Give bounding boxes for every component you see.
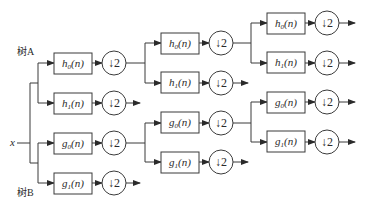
svg-text:↓2: ↓2 bbox=[321, 56, 333, 70]
filter-block-l3-a-h1: h1(n) bbox=[267, 52, 315, 73]
filter-block-l2-a-h1: h1(n) bbox=[161, 72, 209, 93]
filter-block-l3-a-h0: h0(n) bbox=[267, 13, 315, 34]
svg-text:g1(n): g1(n) bbox=[275, 135, 297, 149]
downsample-l2-a-h0: ↓2 bbox=[209, 31, 233, 55]
input-trunk bbox=[17, 63, 54, 183]
downsample-l1-b-g0: ↓2 bbox=[102, 131, 126, 155]
input-x-label: x bbox=[9, 136, 15, 148]
filter-block-l2-a-h0: h0(n) bbox=[161, 33, 209, 54]
level2-branches bbox=[145, 43, 161, 162]
downsample-l1-a-h0: ↓2 bbox=[102, 51, 126, 75]
tree-a-label: 树A bbox=[17, 45, 35, 57]
dual-tree-filter-bank-diagram: 树A 树B x h0(n) ↓2 h1(n) ↓2 bbox=[0, 0, 366, 209]
downsample-l1-b-g1: ↓2 bbox=[102, 171, 140, 195]
svg-text:↓2: ↓2 bbox=[108, 136, 120, 150]
svg-text:h0(n): h0(n) bbox=[62, 57, 84, 71]
svg-text:h0(n): h0(n) bbox=[169, 37, 191, 51]
downsample-l3-a-h1: ↓2 bbox=[315, 51, 355, 75]
svg-text:↓2: ↓2 bbox=[108, 56, 120, 70]
downsample-l1-a-h1: ↓2 bbox=[102, 91, 140, 115]
svg-text:↓2: ↓2 bbox=[215, 76, 227, 90]
svg-text:↓2: ↓2 bbox=[108, 176, 120, 190]
svg-text:↓2: ↓2 bbox=[321, 16, 333, 30]
downsample-l3-b-g0: ↓2 bbox=[315, 90, 355, 114]
downsample-l2-b-g0: ↓2 bbox=[209, 111, 233, 135]
svg-text:g0(n): g0(n) bbox=[169, 116, 191, 130]
svg-text:g1(n): g1(n) bbox=[62, 177, 84, 191]
level3-branches bbox=[251, 23, 267, 142]
svg-text:↓2: ↓2 bbox=[321, 95, 333, 109]
downsample-l3-b-g1: ↓2 bbox=[315, 130, 355, 154]
svg-text:g0(n): g0(n) bbox=[275, 96, 297, 110]
filter-block-l3-b-g0: g0(n) bbox=[267, 92, 315, 113]
downsample-l2-a-h1: ↓2 bbox=[209, 71, 248, 95]
filter-block-l1-b-g1: g1(n) bbox=[54, 173, 102, 194]
filter-block-l2-b-g1: g1(n) bbox=[161, 152, 209, 173]
tree-b-label: 树B bbox=[17, 186, 34, 198]
filter-block-l1-a-h1: h1(n) bbox=[54, 93, 102, 114]
filter-block-l1-a-h0: h0(n) bbox=[54, 53, 102, 74]
svg-text:h0(n): h0(n) bbox=[275, 17, 297, 31]
filter-block-l3-b-g1: g1(n) bbox=[267, 131, 315, 152]
svg-text:h1(n): h1(n) bbox=[275, 56, 297, 70]
svg-text:↓2: ↓2 bbox=[215, 36, 227, 50]
svg-text:↓2: ↓2 bbox=[321, 135, 333, 149]
svg-text:h1(n): h1(n) bbox=[62, 97, 84, 111]
svg-text:h1(n): h1(n) bbox=[169, 76, 191, 90]
filter-block-l1-b-g0: g0(n) bbox=[54, 133, 102, 154]
svg-text:↓2: ↓2 bbox=[215, 155, 227, 169]
svg-text:↓2: ↓2 bbox=[108, 96, 120, 110]
downsample-l2-b-g1: ↓2 bbox=[209, 150, 248, 174]
svg-text:↓2: ↓2 bbox=[215, 116, 227, 130]
downsample-l3-a-h0: ↓2 bbox=[315, 11, 355, 35]
svg-text:g0(n): g0(n) bbox=[62, 137, 84, 151]
filter-block-l2-b-g0: g0(n) bbox=[161, 112, 209, 133]
svg-text:g1(n): g1(n) bbox=[169, 156, 191, 170]
